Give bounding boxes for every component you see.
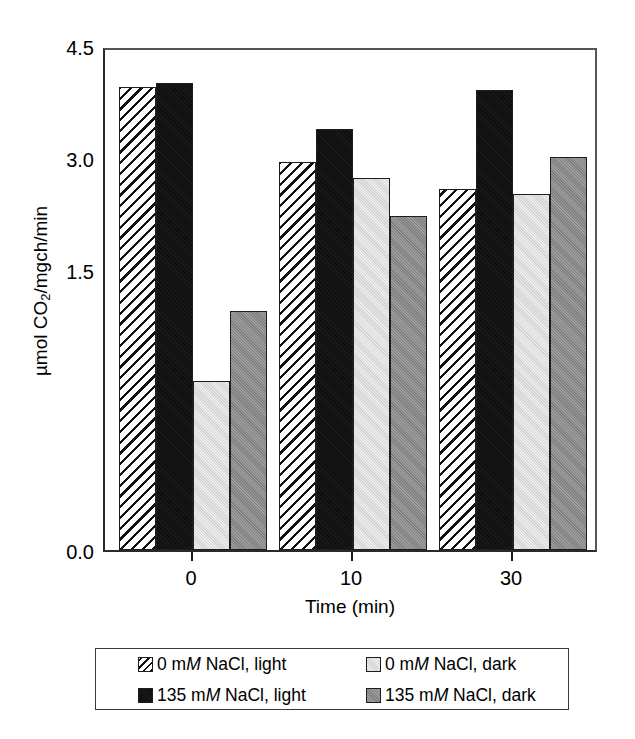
plot-area [103,48,597,552]
legend-label-0mm-light: 0 mM NaCl, light [157,654,286,675]
bar-group-0 [119,50,267,550]
bar-10-nacl135-dark [390,216,427,550]
chart-legend: 0 mM NaCl, light 0 mM NaCl, dark 135 mM … [95,648,569,710]
y-tick-label-4-5: 4.5 [42,38,94,58]
bar-30-nacl135-dark [550,157,587,550]
x-axis-title: Time (min) [103,596,597,618]
legend-label-135mm-light: 135 mM NaCl, light [157,685,306,706]
legend-swatch-hatch-icon [138,657,153,672]
legend-swatch-black-icon [138,688,153,703]
y-tick-label-0-0: 0.0 [42,542,94,562]
bar-10-nacl135-light [316,129,353,550]
legend-swatch-lightgray-icon [366,657,381,672]
x-tick-label-0: 0 [156,566,226,590]
bar-10-nacl0-dark [353,178,390,550]
x-tick-label-30: 30 [476,566,546,590]
bar-0-nacl0-light [119,87,156,550]
legend-label-135mm-dark: 135 mM NaCl, dark [385,685,536,706]
legend-entry-0mm-light: 0 mM NaCl, light [138,649,286,680]
bar-0-nacl135-light [156,83,193,550]
legend-entry-135mm-dark: 135 mM NaCl, dark [366,680,536,711]
bar-group-10 [279,50,427,550]
x-tick-mark-30 [511,552,513,561]
bar-10-nacl0-light [279,162,316,550]
x-tick-mark-10 [351,552,353,561]
legend-entry-135mm-light: 135 mM NaCl, light [138,680,306,711]
x-tick-mark-0 [191,552,193,561]
x-tick-label-10: 10 [316,566,386,590]
bars-layer [105,50,595,550]
bar-group-30 [439,50,587,550]
legend-swatch-darkgray-icon [366,688,381,703]
bar-30-nacl0-light [439,189,476,550]
y-tick-label-3-0: 3.0 [42,150,94,170]
bar-0-nacl135-dark [230,311,267,550]
bar-30-nacl135-light [476,90,513,550]
legend-row-dark: 135 mM NaCl, light 135 mM NaCl, dark [96,680,568,711]
legend-label-0mm-dark: 0 mM NaCl, dark [385,654,516,675]
bar-chart-figure: µmol CO2/mgch/min 4.5 3.0 1.5 0.0 [0,0,635,739]
bar-0-nacl0-dark [193,381,230,550]
legend-entry-0mm-dark: 0 mM NaCl, dark [366,649,516,680]
bar-30-nacl0-dark [513,194,550,550]
y-tick-label-1-5: 1.5 [42,262,94,282]
y-axis-tick-labels: 4.5 3.0 1.5 0.0 [42,0,94,739]
legend-row-light: 0 mM NaCl, light 0 mM NaCl, dark [96,649,568,680]
